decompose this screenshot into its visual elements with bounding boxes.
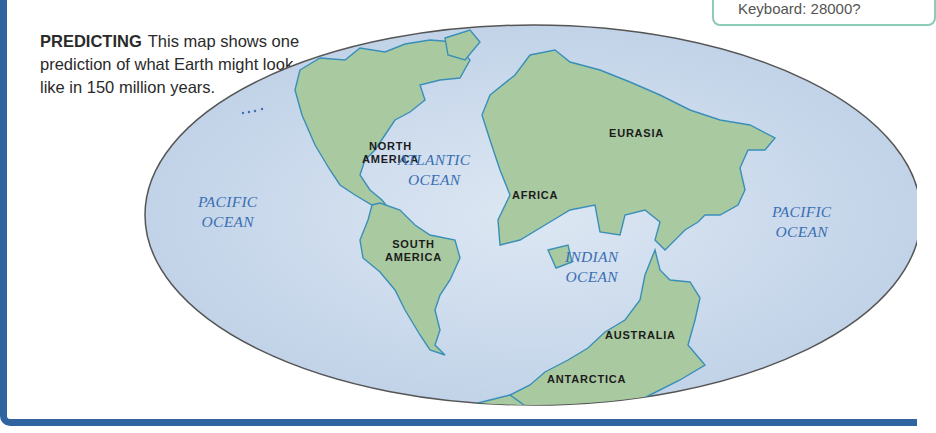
label-pacific-ocean-west: PACIFICOCEAN	[198, 192, 258, 232]
label-atlantic-ocean: ATLANTICOCEAN	[398, 150, 470, 190]
label-antarctica: ANTARCTICA	[547, 373, 626, 386]
label-indian-ocean: INDIANOCEAN	[565, 247, 618, 287]
label-australia: AUSTRALIA	[605, 329, 676, 342]
label-eurasia: EURASIA	[609, 127, 664, 140]
label-pacific-ocean-east: PACIFICOCEAN	[772, 202, 832, 242]
label-africa: AFRICA	[512, 189, 558, 202]
label-south-america: SOUTHAMERICA	[385, 238, 442, 264]
